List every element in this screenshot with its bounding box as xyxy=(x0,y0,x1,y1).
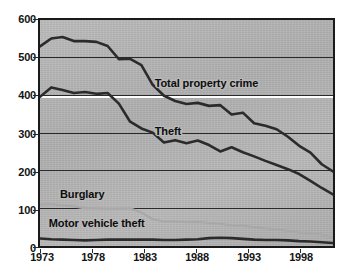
series-lines xyxy=(40,37,333,243)
series-line-total-property-crime xyxy=(40,37,333,171)
series-label-total-property-crime: Total property crime xyxy=(155,77,259,89)
y-axis-label-600: 600 xyxy=(4,14,36,25)
x-axis-label-1998: 1998 xyxy=(281,252,321,263)
plot-area: Total property crime Theft Burglary Moto… xyxy=(38,18,335,248)
y-axis-label-200: 200 xyxy=(4,167,36,178)
series-line-motor-vehicle-theft xyxy=(40,238,333,243)
crime-rate-line-chart: 600 500 400 300 200 100 0 1973 1978 1983… xyxy=(0,0,349,280)
x-axis-label-1988: 1988 xyxy=(177,252,217,263)
y-axis-label-300: 300 xyxy=(4,129,36,140)
x-axis-label-1973: 1973 xyxy=(22,252,62,263)
x-axis-label-1978: 1978 xyxy=(73,252,113,263)
x-axis-label-1983: 1983 xyxy=(125,252,165,263)
y-axis-label-500: 500 xyxy=(4,52,36,63)
y-axis-label-100: 100 xyxy=(4,205,36,216)
plot-svg xyxy=(40,20,333,246)
series-label-motor-vehicle-theft: Motor vehicle theft xyxy=(49,217,145,229)
series-label-theft: Theft xyxy=(155,125,181,137)
y-axis-label-400: 400 xyxy=(4,90,36,101)
x-axis-label-1993: 1993 xyxy=(229,252,269,263)
series-label-burglary: Burglary xyxy=(60,188,104,200)
